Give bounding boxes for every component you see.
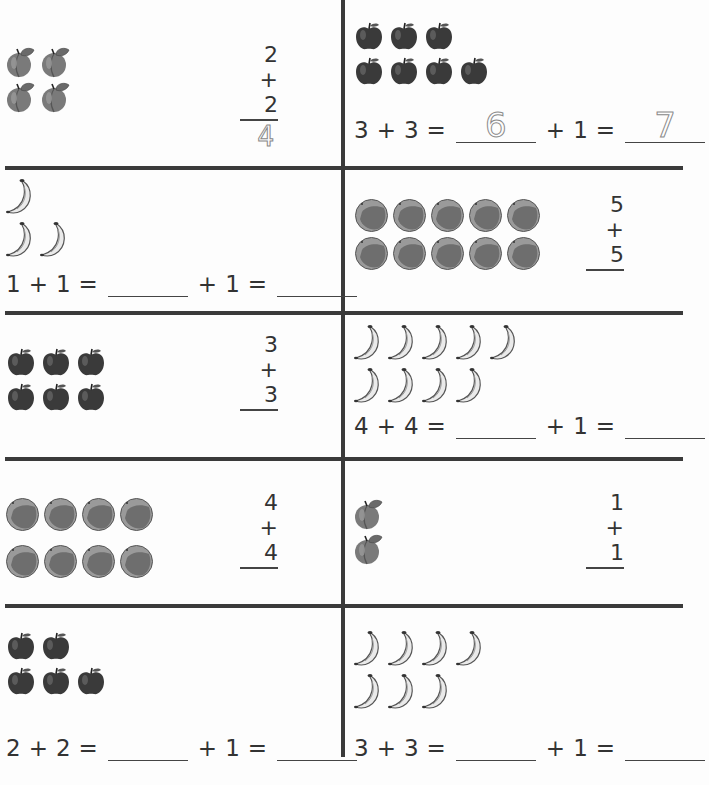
banana-icon (421, 322, 452, 362)
banana-icon (455, 365, 486, 405)
addend-a: 3 (354, 735, 369, 761)
answer-blank-2[interactable] (277, 266, 357, 297)
apple-icon (40, 346, 72, 378)
fruit-row (353, 322, 520, 362)
fruit-row (5, 46, 72, 78)
banana-icon (39, 219, 70, 259)
equals-sign: = (79, 735, 98, 761)
peach-icon (5, 46, 37, 78)
apple-icon (388, 20, 420, 52)
equals-sign: = (248, 271, 267, 297)
row-divider-3-right (345, 457, 683, 461)
apple-icon (5, 665, 37, 697)
fruit-row (5, 176, 70, 216)
fruit-row (354, 198, 541, 233)
banana-icon (353, 322, 384, 362)
answer-blank-2[interactable]: 7 (625, 112, 705, 143)
apple-icon (5, 630, 37, 662)
answer-blank-1[interactable] (108, 730, 188, 761)
answer-blank-1[interactable] (456, 408, 536, 439)
apple-icon (353, 55, 385, 87)
fruit-group (5, 630, 107, 697)
row-divider-4-left (5, 604, 341, 608)
banana-icon (353, 365, 384, 405)
sum-bar (240, 409, 278, 411)
addend-b: 2 (56, 735, 71, 761)
answer-blank-1[interactable] (108, 266, 188, 297)
orange-icon (506, 198, 541, 233)
addend-bottom: 5 (610, 242, 624, 267)
apple-icon (353, 20, 385, 52)
addend-top: 5 (586, 192, 624, 217)
apple-icon (423, 55, 455, 87)
equals-sign: = (248, 735, 267, 761)
plus-sign: + (377, 735, 396, 761)
sum-bar (586, 269, 624, 271)
row-divider-1-right (345, 166, 683, 170)
fruit-row (353, 498, 385, 530)
orange-icon (354, 236, 389, 271)
plus-sign: + (377, 413, 396, 439)
row-divider-1-left (5, 166, 341, 170)
peach-icon (353, 498, 385, 530)
fruit-row (353, 671, 486, 711)
row-divider-2-left (5, 311, 341, 315)
addend-top: 4 (240, 490, 278, 515)
plus-sign: + (260, 357, 278, 382)
apple-icon (388, 55, 420, 87)
orange-icon (81, 544, 116, 579)
equation-line: 2 + 2 = + 1 = (2, 730, 363, 761)
row-divider-4-right (345, 604, 683, 608)
fruit-row (353, 628, 486, 668)
fruit-row (353, 20, 490, 52)
apple-icon (40, 665, 72, 697)
orange-icon (5, 544, 40, 579)
plus-sign: + (198, 271, 217, 297)
orange-icon (43, 544, 78, 579)
addend-bottom: 3 (264, 382, 278, 407)
row-divider-2-right (345, 311, 683, 315)
banana-icon (421, 365, 452, 405)
addend-b: 4 (404, 413, 419, 439)
plus-sign: + (29, 735, 48, 761)
vertical-addition: 1 + 1 (586, 490, 624, 569)
addend-b: 1 (56, 271, 71, 297)
addend-one: 1 (225, 735, 240, 761)
answer-blank-2[interactable] (625, 408, 705, 439)
fruit-row (5, 544, 154, 579)
banana-icon (489, 322, 520, 362)
answer-blank-2[interactable] (277, 730, 357, 761)
addend-one: 1 (573, 413, 588, 439)
addend-b: 3 (404, 117, 419, 143)
addend-top: 1 (586, 490, 624, 515)
answer-blank-2[interactable] (625, 730, 705, 761)
fruit-row (5, 665, 107, 697)
addend-a: 2 (6, 735, 21, 761)
equals-sign: = (427, 735, 446, 761)
equals-sign: = (427, 413, 446, 439)
addend-bottom: 1 (610, 540, 624, 565)
fruit-row (5, 219, 70, 259)
fruit-row (353, 55, 490, 87)
orange-icon (430, 198, 465, 233)
traced-answer[interactable]: 4 (240, 124, 278, 150)
apple-icon (75, 346, 107, 378)
answer-blank-1[interactable]: 6 (456, 112, 536, 143)
answer-blank-1[interactable] (456, 730, 536, 761)
peach-icon (353, 533, 385, 565)
sum-bar (586, 567, 624, 569)
fruit-row (354, 236, 541, 271)
traced-answer: 7 (625, 108, 705, 142)
addend-a: 3 (354, 117, 369, 143)
orange-icon (5, 497, 40, 532)
fruit-group (353, 628, 486, 711)
addend-top: 2 (240, 42, 278, 67)
banana-icon (455, 628, 486, 668)
traced-answer: 6 (456, 108, 536, 142)
equals-sign: = (596, 117, 615, 143)
fruit-row (5, 497, 154, 532)
fruit-group (353, 322, 520, 405)
banana-icon (5, 176, 36, 216)
orange-icon (430, 236, 465, 271)
plus-sign: + (546, 117, 565, 143)
